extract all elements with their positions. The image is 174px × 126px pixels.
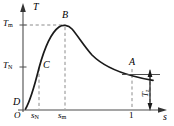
point-label-D: D [13,97,20,107]
point-label-B: B [62,10,68,20]
origin-label: O [14,111,21,120]
xtick-label-sm: sm [58,111,66,120]
Tz-label: Tz [141,90,150,97]
point-label-C: C [43,60,50,70]
torque-slip-figure: T s O Tm TN sN sm 1 D C B A Tz [0,0,174,126]
point-label-A: A [129,57,135,67]
ytick-label-Tm-sub: m [8,22,13,28]
xtick-label-one: 1 [129,111,134,120]
Tz-label-sub: z [144,90,150,92]
Tz-label-base: T [140,92,150,97]
Tz-arrow-head-up [148,69,153,77]
xtick-label-sN-sub: N [35,114,39,120]
y-axis-arrow [20,3,26,12]
chart-canvas [0,0,174,126]
ytick-label-Tm: Tm [3,19,13,28]
x-axis-label: s [163,112,167,122]
xtick-label-sm-sub: m [62,114,67,120]
ytick-label-TN-sub: N [8,64,12,70]
xtick-label-sN: sN [31,111,39,120]
ytick-label-TN: TN [3,61,12,70]
y-axis-label: T [33,2,39,12]
